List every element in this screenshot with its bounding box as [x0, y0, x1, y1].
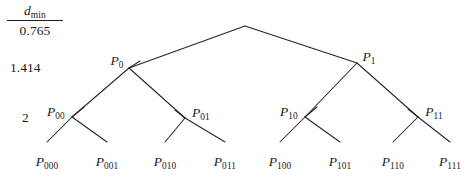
tree-leaf-P100: P100	[269, 155, 292, 169]
tree-edge-P10-P101	[305, 117, 340, 142]
tree-edge-overshoot-2	[175, 110, 185, 118]
tree-edge-overshoot-3	[305, 107, 317, 117]
tree-edge-P0-P01	[129, 68, 185, 118]
tree-node-P0-subscript: 0	[119, 60, 124, 70]
tree-node-P10: P10	[280, 105, 298, 119]
tree-leaf-P000: P000	[36, 155, 59, 169]
tree-node-P01-subscript: 01	[200, 112, 210, 122]
tree-leaf-P110-symbol: P	[382, 154, 390, 169]
tree-leaf-P000-symbol: P	[36, 154, 44, 169]
tree-node-P11-subscript: 11	[433, 111, 442, 121]
tree-node-P00-subscript: 00	[55, 111, 65, 121]
tree-edge-root-P0	[129, 26, 245, 68]
tree-leaf-P010-subscript: 010	[162, 161, 176, 171]
tree-leaf-P011-symbol: P	[214, 154, 222, 169]
tree-edge-root-P1	[245, 26, 357, 63]
tree-leaf-P100-symbol: P	[269, 154, 277, 169]
tree-leaf-P010-symbol: P	[154, 154, 162, 169]
tree-leaf-P110-subscript: 110	[390, 161, 404, 171]
axis-level-label-0: 1.414	[10, 61, 40, 75]
figure-canvas: dmin 0.765 1.4142 P0P1P00P01P10P11P000P0…	[0, 0, 464, 185]
tree-edge-P11-P110	[393, 117, 418, 142]
tree-leaf-P000-subscript: 000	[44, 161, 58, 171]
tree-leaf-P101-symbol: P	[329, 154, 337, 169]
dmin-symbol: d	[24, 3, 31, 18]
tree-leaf-P101-subscript: 101	[337, 161, 351, 171]
dmin-fraction: dmin 0.765	[7, 2, 63, 40]
tree-edge-overshoot-1	[72, 107, 84, 117]
tree-leaf-P011-subscript: 011	[222, 161, 236, 171]
tree-node-P1-symbol: P	[362, 49, 370, 64]
dmin-subscript: min	[31, 10, 46, 20]
tree-leaf-P110: P110	[382, 155, 404, 169]
dmin-denominator: 0.765	[7, 21, 63, 39]
tree-node-P0-symbol: P	[110, 53, 118, 68]
tree-leaf-P001-subscript: 001	[104, 161, 118, 171]
tree-edge-overshoots	[72, 61, 418, 118]
tree-leaf-P111-symbol: P	[439, 154, 447, 169]
tree-node-P0: P0	[110, 54, 123, 68]
tree-node-P1-subscript: 1	[371, 56, 376, 66]
tree-edges	[47, 26, 450, 142]
tree-leaf-P100-subscript: 100	[277, 161, 291, 171]
tree-edge-P1-P10	[305, 63, 357, 117]
tree-edge-P00-P001	[72, 117, 107, 142]
axis-level-label-1: 2	[22, 111, 29, 125]
dmin-numerator: dmin	[7, 2, 63, 20]
tree-leaf-P101: P101	[329, 155, 352, 169]
tree-node-P10-subscript: 10	[288, 111, 298, 121]
tree-node-P11: P11	[425, 105, 443, 119]
tree-node-P01: P01	[192, 106, 210, 120]
tree-leaf-P111-subscript: 111	[447, 161, 461, 171]
tree-node-P00: P00	[47, 105, 65, 119]
tree-edge-overshoot-4	[408, 109, 418, 117]
tree-leaf-P011: P011	[214, 155, 236, 169]
tree-leaf-P111: P111	[439, 155, 461, 169]
tree-leaf-P001-symbol: P	[96, 154, 104, 169]
tree-edge-P01-P010	[165, 118, 185, 142]
tree-leaf-P001: P001	[96, 155, 119, 169]
tree-edge-P1-P11	[357, 63, 418, 117]
tree-node-P1: P1	[362, 50, 375, 64]
tree-leaf-P010: P010	[154, 155, 177, 169]
